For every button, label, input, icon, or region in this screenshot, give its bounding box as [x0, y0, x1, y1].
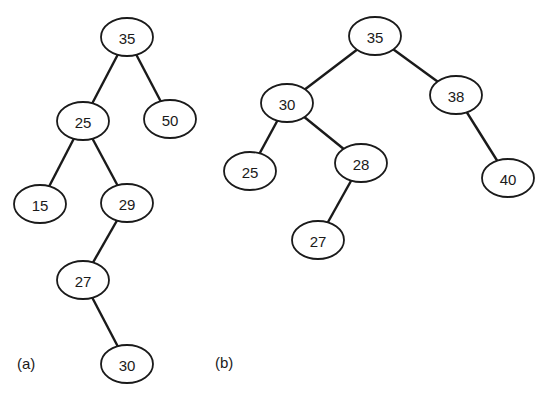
tree-node-35: 35 — [101, 18, 153, 56]
tree-node-25: 25 — [224, 152, 276, 190]
node-value: 35 — [367, 29, 384, 46]
tree-node-29: 29 — [101, 184, 153, 222]
tree-node-40: 40 — [482, 159, 534, 197]
tree-node-25: 25 — [57, 102, 109, 140]
tree-node-28: 28 — [335, 144, 387, 182]
tree-node-30: 30 — [101, 345, 153, 383]
node-value: 29 — [119, 196, 136, 213]
node-value: 35 — [119, 30, 136, 47]
panel-label-a: (a) — [17, 355, 35, 372]
node-value: 25 — [75, 114, 92, 131]
node-value: 27 — [75, 273, 92, 290]
tree-nodes: 3525501529273035303825284027 — [14, 17, 534, 383]
node-value: 28 — [353, 156, 370, 173]
tree-node-15: 15 — [14, 185, 66, 223]
node-value: 30 — [279, 96, 296, 113]
tree-node-35: 35 — [349, 17, 401, 55]
tree-node-27: 27 — [292, 221, 344, 259]
binary-tree-diagram: 3525501529273035303825284027 — [0, 0, 545, 393]
panel-label-b: (b) — [215, 354, 233, 371]
node-value: 38 — [448, 88, 465, 105]
node-value: 30 — [119, 357, 136, 374]
node-value: 27 — [310, 233, 327, 250]
node-value: 50 — [162, 112, 179, 129]
tree-node-30: 30 — [261, 84, 313, 122]
node-value: 40 — [500, 171, 517, 188]
node-value: 15 — [32, 197, 49, 214]
tree-node-27: 27 — [57, 261, 109, 299]
tree-node-50: 50 — [144, 100, 196, 138]
node-value: 25 — [242, 164, 259, 181]
tree-node-38: 38 — [430, 76, 482, 114]
